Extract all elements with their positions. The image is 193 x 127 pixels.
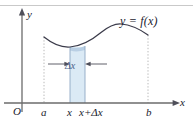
tick-label-a: a [41, 106, 47, 118]
delta-x-label: Δx [65, 60, 75, 71]
y-axis-label: y [27, 8, 32, 20]
figure-canvas: y x y = f(x) O a x x+Δx b Δx [0, 0, 193, 127]
shaded-strip [70, 47, 85, 103]
x-axis-arrowhead [173, 100, 180, 106]
tick-label-b: b [146, 106, 152, 118]
origin-label: O [13, 105, 21, 117]
x-axis-label: x [180, 96, 185, 108]
tick-label-x: x [67, 106, 72, 118]
function-label: y = f(x) [120, 14, 158, 29]
tick-label-x-plus-dx: x+Δx [79, 106, 103, 118]
delta-x-arrow-right [85, 62, 107, 66]
y-axis-arrowhead [19, 8, 25, 15]
